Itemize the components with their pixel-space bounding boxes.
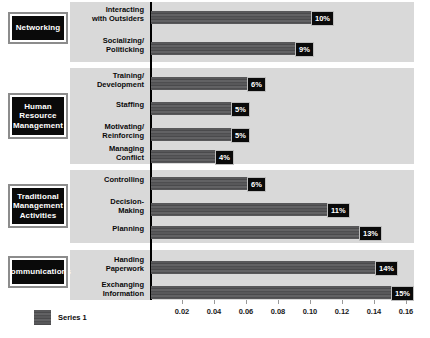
- bar-value-label: 5%: [231, 128, 250, 143]
- x-axis-tick: [342, 300, 343, 304]
- bar-row-label: HandingPaperwork: [70, 256, 148, 273]
- bar-value-label: 13%: [359, 226, 382, 241]
- bar-row-label: Interactingwith Outsiders: [70, 6, 148, 23]
- category-box-label: HumanResourceManagement: [10, 102, 66, 131]
- bar[interactable]: [151, 42, 295, 55]
- bar[interactable]: [151, 177, 247, 190]
- bar-value-label: 15%: [391, 286, 414, 301]
- bar-row-label: Planning: [70, 225, 148, 234]
- x-axis-tick-label: 0.04: [207, 307, 222, 316]
- bar[interactable]: [151, 77, 247, 90]
- x-axis-tick-label: 0.02: [175, 307, 190, 316]
- bar[interactable]: [151, 11, 311, 24]
- bar[interactable]: [151, 128, 231, 141]
- legend-swatch-series-1: [34, 310, 51, 325]
- x-axis-tick-label: 0.06: [239, 307, 254, 316]
- bar-value-label: 11%: [327, 203, 350, 218]
- legend-label-series-1: Series 1: [58, 313, 87, 322]
- x-axis-tick: [182, 300, 183, 304]
- plot-area: 10%9%6%5%5%4%6%11%13%14%15%: [150, 0, 414, 300]
- x-axis-tick-label: 0.12: [335, 307, 350, 316]
- bar-value-label: 5%: [231, 102, 250, 117]
- category-box-label: Networking: [13, 23, 64, 33]
- category-box-label: Communications: [2, 267, 74, 277]
- horizontal-bar-chart: NetworkingHumanResourceManagementTraditi…: [0, 0, 430, 338]
- x-axis-tick-label: 0.08: [271, 307, 286, 316]
- x-axis-tick: [310, 300, 311, 304]
- bar[interactable]: [151, 150, 215, 163]
- bar[interactable]: [151, 286, 391, 299]
- bar[interactable]: [151, 261, 375, 274]
- category-box-communications[interactable]: Communications: [10, 258, 66, 286]
- bar[interactable]: [151, 226, 359, 239]
- bar-value-label: 6%: [247, 177, 266, 192]
- x-axis-tick: [278, 300, 279, 304]
- bar[interactable]: [151, 102, 231, 115]
- x-axis-tick-label: 0.10: [303, 307, 318, 316]
- bar-row-label: ExchangingInformation: [70, 281, 148, 298]
- x-axis-tick: [214, 300, 215, 304]
- x-axis-tick-label: 0.14: [367, 307, 382, 316]
- x-axis-tick: [246, 300, 247, 304]
- bar-row-label: Motivating/Reinforcing: [70, 123, 148, 140]
- bar-value-label: 4%: [215, 150, 234, 165]
- bar-value-label: 14%: [375, 261, 398, 276]
- category-box-human-resource-management[interactable]: HumanResourceManagement: [10, 95, 66, 137]
- bar-row-label: ManagingConflict: [70, 145, 148, 162]
- category-box-label: TraditionalManagementActivities: [10, 192, 66, 221]
- bar-value-label: 6%: [247, 77, 266, 92]
- category-box-networking[interactable]: Networking: [10, 14, 66, 42]
- x-axis-tick: [406, 300, 407, 304]
- bar-row-label: Training/Development: [70, 72, 148, 89]
- chart-legend: Series 1: [34, 310, 87, 325]
- bar-row-label: Decision-Making: [70, 198, 148, 215]
- bar-row-label: Staffing: [70, 101, 148, 110]
- bar-row-label: Socializing/Politicking: [70, 37, 148, 54]
- bar[interactable]: [151, 203, 327, 216]
- bar-value-label: 10%: [311, 11, 334, 26]
- bar-value-label: 9%: [295, 42, 314, 57]
- x-axis-tick-label: 0.16: [399, 307, 414, 316]
- x-axis: 0.020.040.060.080.100.120.140.16: [150, 300, 414, 338]
- bar-row-label: Controlling: [70, 176, 148, 185]
- category-box-traditional-management-activities[interactable]: TraditionalManagementActivities: [10, 186, 66, 226]
- x-axis-tick: [374, 300, 375, 304]
